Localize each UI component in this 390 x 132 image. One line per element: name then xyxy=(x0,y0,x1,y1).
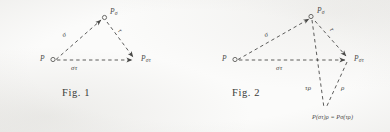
fig1-vertex-P-marker xyxy=(51,57,55,61)
fig1-vertex-Psigma-marker xyxy=(102,15,106,19)
fig2-edge-tau xyxy=(315,21,346,56)
fig2-caption: Fig. 2 xyxy=(232,88,260,99)
fig1-edge-tau xyxy=(107,22,133,57)
fig2-edge-label-rho: ρ xyxy=(341,85,345,92)
fig2-edge-taurho xyxy=(312,20,324,108)
fig2-vertex-label-Psigma: Pσ xyxy=(317,7,325,16)
fig1-vertex-label-P: P xyxy=(40,55,45,63)
fig2-vertex-P-marker xyxy=(233,57,237,61)
fig1-vertex-label-Psigmatau: Pστ xyxy=(141,55,151,64)
fig1-edge-sigma xyxy=(56,20,101,60)
fig2-edge-label-sigmatau: στ xyxy=(276,65,282,72)
figure-page: P Pσ Pστ σ τ στ Fig. 1 P Pσ Pστ σ τ στ τ… xyxy=(0,0,390,132)
fig2-vertex-label-P: P xyxy=(222,55,227,63)
fig1-vertex-label-Psigma: Pσ xyxy=(110,8,118,17)
fig1-vertex-Psigma-sub: σ xyxy=(115,10,118,16)
fig1-edge-label-sigmatau: στ xyxy=(71,65,77,72)
fig2-vertex-Psigmatau-sub: στ xyxy=(359,57,364,63)
fig2-edge-label-taurho: τρ xyxy=(305,85,311,92)
fig1-vertex-Psigmatau-sub: στ xyxy=(146,57,151,63)
fig2-vertex-label-Psigmatau: Pστ xyxy=(354,55,364,64)
fig2-edge-sigma xyxy=(238,19,309,60)
fig2-vertex-Psigma-sub: σ xyxy=(322,9,325,15)
fig1-caption: Fig. 1 xyxy=(62,88,90,99)
fig2-result-label: P(στ)ρ = Pσ(τρ) xyxy=(312,114,353,120)
fig2-vertex-Psigma-marker xyxy=(309,14,313,18)
